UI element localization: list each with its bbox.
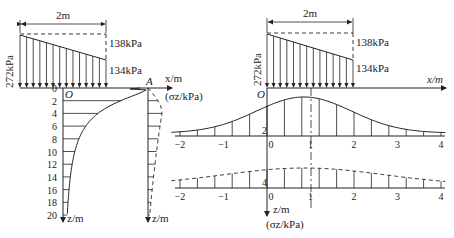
left-origin-label: O [65, 88, 73, 100]
stress-hatch-under-a [148, 101, 162, 215]
load-arrow-head [104, 83, 108, 88]
x-tick-label: −2 [175, 191, 186, 202]
profile-z2-x-ticks: −2−101234 [175, 139, 444, 150]
load-arrow-head [91, 83, 95, 88]
load-arrow-head [311, 83, 315, 88]
depth-tick-label: 0 [52, 83, 57, 94]
load-arrow-head [18, 83, 22, 88]
x-tick-label: −1 [218, 139, 229, 150]
right-load-arrows [265, 34, 355, 88]
stress-curve-under-o [67, 88, 146, 214]
stress-hatch-z4 [180, 168, 441, 188]
load-arrow-head [78, 83, 82, 88]
left-z-axis-label-o: z/m [67, 212, 84, 224]
left-load-right-label: 134kPa [109, 64, 142, 76]
x-tick-label: 3 [395, 139, 400, 150]
x-tick-label: 0 [269, 139, 274, 150]
right-load-right-label: 134kPa [356, 62, 389, 74]
left-width-dimension: 2m [20, 9, 106, 33]
left-load-left-label: 272kPa [3, 55, 15, 88]
load-arrow-head [351, 83, 355, 88]
depth-tick-label: 2 [52, 96, 57, 107]
depth-tick-label: 12 [47, 159, 57, 170]
right-load-left-label: 272kPa [251, 53, 263, 86]
load-arrow-head [331, 83, 335, 88]
depth-tick-label: 16 [47, 185, 57, 196]
load-arrow-head [58, 83, 62, 88]
load-arrow-head [298, 83, 302, 88]
depth-tick-label: 6 [52, 121, 57, 132]
load-arrow-head [278, 83, 282, 88]
right-x-axis-label: x/m [426, 73, 443, 85]
load-arrow-head [325, 83, 329, 88]
depth-tick-label: 4 [52, 108, 57, 119]
load-arrow-head [344, 83, 348, 88]
x-tick-label: −1 [218, 191, 229, 202]
load-arrow-head [305, 83, 309, 88]
depth-tick-label: 18 [47, 197, 57, 208]
load-arrow-head [97, 83, 101, 88]
x-tick-label: 4 [439, 139, 444, 150]
point-a-label: A [145, 75, 153, 87]
x-tick-label: −2 [175, 139, 186, 150]
x-tick-label: 1 [308, 139, 313, 150]
x-tick-label: 4 [439, 191, 444, 202]
right-z-axis-label: z/m [273, 203, 290, 215]
left-x-axis-label: x/m [165, 72, 183, 84]
stress-curve-z2 [171, 97, 445, 133]
stress-distribution-diagram: 2m 272kPa 138kPa 134kPa x/m A (σz/kPa) O… [0, 0, 454, 238]
depth-tick-label: 10 [47, 147, 57, 158]
x-tick-label: 2 [352, 191, 357, 202]
depth-tick-label: 20 [47, 210, 57, 221]
load-arrow-head [272, 83, 276, 88]
depth-tick-label: 14 [47, 172, 57, 183]
x-tick-label: 1 [308, 191, 313, 202]
right-stress-label: (σz/kPa) [266, 218, 304, 231]
left-stress-label: (σz/kPa) [165, 90, 203, 103]
x-tick-label: 2 [352, 139, 357, 150]
right-origin-label: O [257, 88, 265, 100]
stress-curve-z4 [171, 168, 445, 181]
load-arrow-head [291, 83, 295, 88]
load-arrow-head [338, 83, 342, 88]
load-arrow-head [44, 83, 48, 88]
depth-tick-label: 8 [52, 134, 57, 145]
stress-hatch-under-o [63, 101, 121, 215]
load-arrow-head [31, 83, 35, 88]
profile-z4-depth-label: 4 [262, 177, 267, 188]
right-width-dimension: 2m [267, 7, 353, 33]
profile-z4-x-ticks: −2−101234 [175, 191, 444, 202]
right-load-mid-label: 138kPa [356, 36, 389, 48]
x-tick-label: 0 [269, 191, 274, 202]
right-figure: 2m 272kPa 138kPa 134kPa x/m O z/m (σz/kP… [171, 7, 446, 231]
profile-z2-depth-label: 2 [262, 125, 267, 136]
load-arrow-head [38, 83, 42, 88]
left-z-axis-label-a: z/m [152, 212, 169, 224]
left-load-mid-label: 138kPa [109, 37, 142, 49]
load-arrow-head [25, 83, 29, 88]
left-depth-ticks: 02468101214161820 [47, 83, 57, 221]
load-arrow-head [285, 83, 289, 88]
stress-hatch-z2 [180, 97, 441, 136]
left-width-label: 2m [56, 9, 71, 21]
load-arrow-head [84, 83, 88, 88]
left-load-arrows [18, 35, 108, 88]
x-tick-label: 3 [395, 191, 400, 202]
load-arrow-head [318, 83, 322, 88]
load-arrow-head [265, 83, 269, 88]
right-width-label: 2m [303, 7, 318, 19]
left-figure: 2m 272kPa 138kPa 134kPa x/m A (σz/kPa) O… [3, 9, 203, 224]
